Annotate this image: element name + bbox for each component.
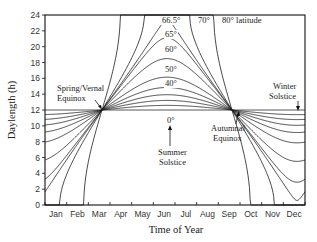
label-60: 60° bbox=[165, 44, 177, 54]
label-40: 40° bbox=[165, 78, 177, 88]
winter-solstice-label-1: Winter bbox=[273, 81, 296, 91]
label-80: 80° latitude bbox=[222, 15, 262, 25]
label-66-5: 66.5° bbox=[162, 15, 180, 25]
autumn-equinox-label-1: Autumnal bbox=[211, 123, 246, 133]
y-tick-label: 6 bbox=[35, 153, 40, 163]
x-tick-label-may: May bbox=[134, 209, 151, 219]
y-tick-label: 0 bbox=[35, 200, 40, 210]
y-tick-label: 18 bbox=[31, 58, 41, 68]
x-tick-label-feb: Feb bbox=[70, 209, 85, 219]
daylength-chart: 024681012141618202224 JanFebMarAprMayJun… bbox=[0, 0, 317, 242]
label-0: 0° bbox=[167, 115, 175, 125]
x-tick-label-oct: Oct bbox=[244, 209, 258, 219]
x-tick-label-sep: Sep bbox=[222, 209, 237, 219]
x-axis-title: Time of Year bbox=[149, 224, 204, 235]
y-tick-label: 12 bbox=[31, 105, 41, 115]
summer-solstice-label-1: Summer bbox=[158, 147, 187, 157]
x-tick-label-apr: Apr bbox=[114, 209, 127, 219]
autumn-equinox-label-2: Equinox bbox=[213, 133, 243, 143]
winter-solstice-label-2: Solstice bbox=[269, 91, 296, 101]
spring-arrowhead bbox=[98, 105, 102, 110]
summer-arrowhead bbox=[168, 125, 172, 130]
spring-equinox-label-1: Spring/Vernal bbox=[57, 83, 105, 93]
y-tick-label: 20 bbox=[31, 42, 41, 52]
spring-equinox-label-2: Equinox bbox=[57, 93, 87, 103]
x-tick-label-jun: Jun bbox=[157, 209, 171, 219]
y-tick-label: 22 bbox=[31, 26, 41, 36]
label-70: 70° bbox=[198, 15, 210, 25]
x-tick-label-jul: Jul bbox=[180, 209, 191, 219]
x-tick-label-nov: Nov bbox=[265, 209, 281, 219]
label-50: 50° bbox=[165, 64, 177, 74]
y-axis: 024681012141618202224 bbox=[31, 10, 45, 210]
x-tick-label-mar: Mar bbox=[92, 209, 107, 219]
label-65: 65° bbox=[165, 29, 177, 39]
y-tick-label: 2 bbox=[35, 184, 40, 194]
latitude-labels: 66.5° 70° 80° latitude 65° 60° 50° 40° 0… bbox=[160, 15, 262, 125]
y-tick-label: 10 bbox=[31, 121, 41, 131]
y-tick-label: 8 bbox=[35, 137, 40, 147]
y-tick-label: 14 bbox=[31, 89, 41, 99]
y-tick-label: 16 bbox=[31, 73, 41, 83]
x-tick-label-dec: Dec bbox=[287, 209, 303, 219]
x-tick-label-jan: Jan bbox=[49, 209, 63, 219]
x-tick-label-aug: Aug bbox=[200, 209, 215, 219]
y-axis-title: Daylength (h) bbox=[6, 80, 18, 139]
summer-solstice-label-2: Solstice bbox=[159, 157, 186, 167]
y-tick-label: 4 bbox=[35, 168, 40, 178]
y-tick-label: 24 bbox=[31, 10, 41, 20]
